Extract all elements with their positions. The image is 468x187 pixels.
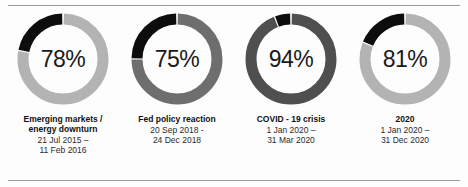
donut-caption-title: COVID - 19 crisis [257,114,326,124]
donut-panel: 75% Fed policy reaction 20 Sep 2018 - 24… [120,9,234,145]
donut-caption: Fed policy reaction 20 Sep 2018 - 24 Dec… [138,114,215,145]
donut-caption-dates: 20 Sep 2018 - 24 Dec 2018 [138,125,215,145]
donut-panel-group: 78% Emerging markets / energy downturn 2… [0,9,468,177]
donut-panel: 78% Emerging markets / energy downturn 2… [6,9,120,155]
donut-caption: 2020 1 Jan 2020 – 31 Dec 2020 [380,114,429,145]
donut-caption-dates: 1 Jan 2020 – 31 Mar 2020 [257,125,326,145]
donut-caption-title: 2020 [380,114,429,124]
top-divider [8,5,460,6]
donut-panel: 81% 2020 1 Jan 2020 – 31 Dec 2020 [348,9,462,145]
donut-caption-dates: 1 Jan 2020 – 31 Dec 2020 [380,125,429,145]
donut-value-label: 94% [241,9,341,109]
donut-value-label: 78% [13,9,113,109]
donut-value-label: 81% [355,9,455,109]
donut-caption: COVID - 19 crisis 1 Jan 2020 – 31 Mar 20… [257,114,326,145]
bottom-divider [8,180,460,181]
donut-panel: 94% COVID - 19 crisis 1 Jan 2020 – 31 Ma… [234,9,348,145]
donut-caption-title: Fed policy reaction [138,114,215,124]
donut-chart-4: 81% [355,9,455,109]
donut-caption: Emerging markets / energy downturn 21 Ju… [24,114,103,155]
donut-caption-title: Emerging markets / energy downturn [24,114,103,134]
donut-caption-dates: 21 Jul 2015 – 11 Feb 2016 [24,135,103,155]
donut-value-label: 75% [127,9,227,109]
chart-sheet: 78% Emerging markets / energy downturn 2… [0,0,468,187]
donut-chart-3: 94% [241,9,341,109]
donut-chart-2: 75% [127,9,227,109]
donut-chart-1: 78% [13,9,113,109]
